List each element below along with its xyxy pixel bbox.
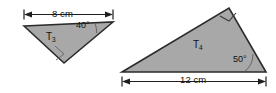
geometry-figure: 8 cm 40° T3 12 cm 50° T4: [0, 0, 276, 93]
triangle-t3-group: [24, 22, 113, 63]
angle-label-t3: 40°: [76, 21, 90, 30]
triangle-label-t3: T3: [46, 32, 56, 42]
dimension-arrow-right-t3: [105, 12, 113, 18]
dimension-arrow-left-t4: [122, 79, 130, 85]
dimension-arrow-right-t4: [258, 79, 266, 85]
dimension-label-t3: 8 cm: [52, 9, 73, 19]
triangle-t3-shape: [24, 22, 113, 63]
dimension-arrow-left-t3: [24, 12, 32, 18]
figure-canvas: [0, 0, 276, 93]
triangle-label-t4-subscript: 4: [199, 44, 203, 51]
triangle-label-t3-subscript: 3: [52, 36, 56, 43]
dimension-label-t4: 12 cm: [180, 75, 206, 85]
triangle-label-t4: T4: [193, 40, 203, 50]
angle-label-t4: 50°: [233, 55, 247, 64]
